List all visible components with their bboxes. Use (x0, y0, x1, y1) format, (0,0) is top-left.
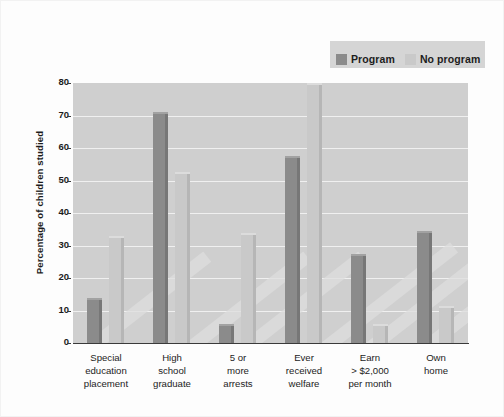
gridline (73, 148, 468, 149)
y-tick-label: 60 (29, 141, 69, 152)
y-tick-label: 0 (29, 336, 69, 347)
x-tick-label: Specialeducationplacement (73, 351, 139, 390)
y-tick-label: 30 (29, 239, 69, 250)
gridline (73, 213, 468, 214)
bar-body (439, 306, 454, 343)
legend-label-no-program: No program (420, 53, 481, 65)
gridline (73, 181, 468, 182)
background-streak (85, 251, 211, 343)
gridline (73, 116, 468, 117)
y-tick-label: 70 (29, 109, 69, 120)
x-axis-category-labels: SpecialeducationplacementHighschoolgradu… (73, 351, 469, 390)
legend-swatch-no-program (405, 54, 416, 65)
bar-body (109, 236, 124, 343)
y-tick-mark (67, 213, 71, 214)
chart-figure: Program No program Percentage of childre… (0, 0, 504, 417)
bar-program (285, 156, 300, 343)
bar-no-program (439, 306, 454, 343)
chart-legend: Program No program (330, 41, 485, 68)
x-tick-label: Earn> $2,000per month (337, 351, 403, 390)
y-tick-mark (67, 116, 71, 117)
gridline (73, 246, 468, 247)
bar-body (417, 231, 432, 343)
y-tick-label: 50 (29, 174, 69, 185)
legend-swatch-program (336, 54, 347, 65)
bar-body (285, 156, 300, 343)
x-axis-line (73, 343, 469, 344)
bar-no-program (373, 324, 388, 344)
bar-no-program (109, 236, 124, 343)
y-tick-mark (67, 343, 71, 344)
bar-program (417, 231, 432, 343)
y-tick-mark (67, 83, 71, 84)
y-tick-mark (67, 181, 71, 182)
y-tick-label: 40 (29, 206, 69, 217)
y-tick-mark (67, 278, 71, 279)
bar-body (307, 83, 322, 343)
bar-body (373, 324, 388, 344)
x-tick-label: Highschoolgraduate (139, 351, 205, 390)
y-tick-mark (67, 246, 71, 247)
x-tick-label: Everreceivedwelfare (271, 351, 337, 390)
y-tick-mark (67, 311, 71, 312)
bar-body (241, 233, 256, 344)
bar-program (351, 254, 366, 343)
legend-label-program: Program (351, 53, 395, 65)
bar-program (219, 324, 234, 344)
bar-no-program (241, 233, 256, 344)
bar-body (175, 172, 190, 343)
bar-body (153, 112, 168, 343)
y-tick-label: 10 (29, 304, 69, 315)
y-tick-mark (67, 148, 71, 149)
legend-entry-no-program: No program (405, 53, 481, 65)
bar-program (87, 298, 102, 344)
bar-body (219, 324, 234, 344)
bar-body (351, 254, 366, 343)
y-tick-label: 20 (29, 271, 69, 282)
y-axis-ticks: 01020304050607080 (23, 1, 69, 417)
bar-body (87, 298, 102, 344)
y-tick-label: 80 (29, 76, 69, 87)
bar-no-program (175, 172, 190, 343)
bar-no-program (307, 83, 322, 343)
x-tick-label: Ownhome (403, 351, 469, 390)
legend-entry-program: Program (336, 53, 395, 65)
x-tick-label: 5 ormorearrests (205, 351, 271, 390)
plot-area (73, 83, 468, 343)
bar-program (153, 112, 168, 343)
